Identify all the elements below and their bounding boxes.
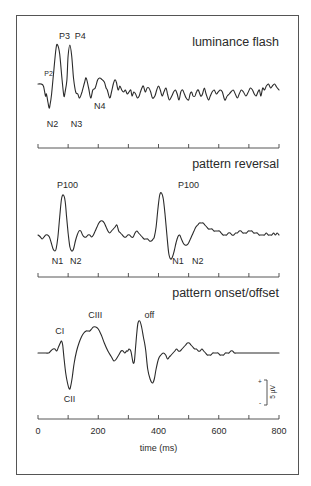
tick-label-200: 200 — [90, 426, 105, 436]
peak-label-n2: N2 — [70, 256, 82, 266]
tick-label-800: 800 — [271, 426, 286, 436]
peak-label-cii: CII — [64, 394, 76, 404]
x-axis-title: time (ms) — [140, 443, 178, 453]
trace-pattern-reversal — [38, 193, 279, 260]
panel-title-pattern-onset-offset: pattern onset/offset — [172, 286, 279, 300]
scale-unit: 5 µV — [269, 385, 277, 399]
peak-label-n1: N1 — [52, 256, 64, 266]
panel-pattern-onset-offset: pattern onset/offset CICIICIIIoff — [38, 286, 280, 404]
tick-label-600: 600 — [211, 426, 226, 436]
panel-title-luminance-flash: luminance flash — [192, 35, 279, 49]
peak-label-ci: CI — [55, 326, 64, 336]
peak-label-ciii: CIII — [88, 310, 102, 320]
tick-label-0: 0 — [35, 426, 40, 436]
separator-axis-2 — [38, 273, 279, 277]
trace-luminance-flash — [38, 44, 279, 108]
peak-label-p100: P100 — [57, 180, 78, 190]
panel-pattern-reversal: pattern reversal P100N1N2P100N1N2 — [38, 157, 279, 266]
panel-luminance-flash: luminance flash P2P3P4N2N3N4 — [38, 31, 279, 129]
separator-axis-1 — [38, 144, 279, 148]
scale-plus: + — [258, 378, 262, 385]
peak-label-p100: P100 — [178, 180, 199, 190]
vep-figure: luminance flash P2P3P4N2N3N4 pattern rev… — [0, 0, 311, 486]
peak-labels: P100N1N2P100N1N2 — [52, 180, 204, 266]
peak-label-p2: P2 — [44, 70, 53, 77]
x-tick-labels: 0 200 400 600 800 — [35, 426, 286, 436]
peak-label-n4: N4 — [94, 101, 106, 111]
scale-bar: + - 5 µV — [258, 378, 277, 406]
peak-label-off: off — [145, 310, 155, 320]
tick-label-400: 400 — [151, 426, 166, 436]
peak-labels: CICIICIIIoff — [55, 310, 155, 404]
peak-label-n1: N1 — [172, 256, 184, 266]
scale-minus: - — [259, 399, 261, 406]
x-axis — [38, 415, 279, 419]
panel-title-pattern-reversal: pattern reversal — [192, 157, 279, 171]
peak-label-n2: N2 — [47, 119, 59, 129]
peak-label-p3: P3 — [59, 31, 70, 41]
peak-label-n2: N2 — [192, 256, 204, 266]
peak-label-n3: N3 — [71, 119, 83, 129]
scale-bar-bracket — [264, 380, 267, 405]
figure-frame — [17, 16, 299, 475]
peak-label-p4: P4 — [75, 31, 86, 41]
trace-pattern-onset-offset — [38, 321, 279, 390]
